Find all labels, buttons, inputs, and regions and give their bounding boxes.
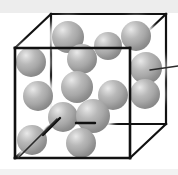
particle-sphere — [23, 81, 53, 111]
particle-sphere — [61, 71, 93, 103]
particle-sphere — [66, 128, 96, 158]
particle-sphere — [17, 125, 47, 155]
bottom-background-band — [0, 169, 178, 175]
particle-sphere — [76, 99, 110, 133]
particle-sphere — [94, 32, 122, 60]
connector-edge-bottom-right — [130, 124, 166, 158]
particle-sphere — [130, 79, 160, 109]
particle-sphere — [48, 102, 78, 132]
cube-scene — [0, 0, 178, 175]
particle-sphere — [121, 21, 151, 51]
connector-edge-top-left — [15, 14, 51, 48]
cube-svg — [0, 0, 178, 175]
particle-sphere — [16, 47, 46, 77]
figure-root — [0, 0, 178, 175]
